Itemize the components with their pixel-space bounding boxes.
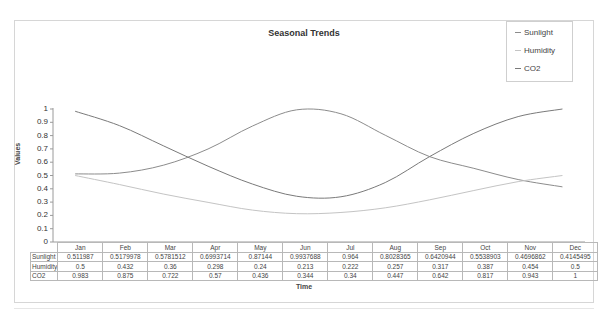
table-cell: 0.257 bbox=[373, 262, 418, 272]
table-cell: 0.432 bbox=[103, 262, 148, 272]
table-cell: 0.5179978 bbox=[103, 252, 148, 262]
table-cell: 0.983 bbox=[58, 271, 103, 281]
table-cell: 0.9937688 bbox=[283, 252, 328, 262]
table-header-cell: Feb bbox=[103, 243, 148, 253]
table-cell: 0.6993714 bbox=[193, 252, 238, 262]
table-header-cell: Sep bbox=[418, 243, 463, 253]
table-cell: 0.642 bbox=[418, 271, 463, 281]
table-cell: 0.222 bbox=[328, 262, 373, 272]
table-cell: 1 bbox=[553, 271, 598, 281]
table-header-cell: Aug bbox=[373, 243, 418, 253]
table-cell: 0.34 bbox=[328, 271, 373, 281]
table-header-cell: May bbox=[238, 243, 283, 253]
series-line-humidity bbox=[75, 176, 562, 214]
table-row: Humidity0.50.4320.360.2980.240.2130.2220… bbox=[31, 262, 598, 272]
table-cell: 0.387 bbox=[463, 262, 508, 272]
table-cell: 0.24 bbox=[238, 262, 283, 272]
table-cell: 0.36 bbox=[148, 262, 193, 272]
table-cell: 0.964 bbox=[328, 252, 373, 262]
series-line-co2 bbox=[75, 109, 562, 198]
table-cell: 0.454 bbox=[508, 262, 553, 272]
x-axis-label: Time bbox=[0, 283, 608, 290]
table-header-cell: Jun bbox=[283, 243, 328, 253]
table-header-row: JanFebMarAprMayJunJulAugSepOctNovDec bbox=[31, 243, 598, 253]
series-lines bbox=[75, 109, 562, 214]
table-row-header: Sunlight bbox=[31, 252, 58, 262]
table-cell: 0.6420944 bbox=[418, 252, 463, 262]
table-cell: 0.57 bbox=[193, 271, 238, 281]
table-header-cell: Apr bbox=[193, 243, 238, 253]
table-cell: 0.5538903 bbox=[463, 252, 508, 262]
table-header-cell: Dec bbox=[553, 243, 598, 253]
table-row-header: CO2 bbox=[31, 271, 58, 281]
table-cell: 0.87144 bbox=[238, 252, 283, 262]
table-cell: 0.4696862 bbox=[508, 252, 553, 262]
table-header-cell: Jan bbox=[58, 243, 103, 253]
table-header-cell: Mar bbox=[148, 243, 193, 253]
table-cell: 0.511987 bbox=[58, 252, 103, 262]
table-cell: 0.5 bbox=[553, 262, 598, 272]
table-cell: 0.213 bbox=[283, 262, 328, 272]
table-corner bbox=[31, 243, 58, 253]
table-cell: 0.317 bbox=[418, 262, 463, 272]
table-cell: 0.298 bbox=[193, 262, 238, 272]
table-header-cell: Nov bbox=[508, 243, 553, 253]
table-cell: 0.875 bbox=[103, 271, 148, 281]
table-cell: 0.943 bbox=[508, 271, 553, 281]
table-cell: 0.5781512 bbox=[148, 252, 193, 262]
table-cell: 0.344 bbox=[283, 271, 328, 281]
table-cell: 0.5 bbox=[58, 262, 103, 272]
table-cell: 0.447 bbox=[373, 271, 418, 281]
table-row-header: Humidity bbox=[31, 262, 58, 272]
table-row: CO20.9830.8750.7220.570.4360.3440.340.44… bbox=[31, 271, 598, 281]
data-table: JanFebMarAprMayJunJulAugSepOctNovDecSunl… bbox=[30, 242, 598, 281]
table-header-cell: Oct bbox=[463, 243, 508, 253]
table-cell: 0.722 bbox=[148, 271, 193, 281]
table-header-cell: Jul bbox=[328, 243, 373, 253]
table-cell: 0.436 bbox=[238, 271, 283, 281]
table-cell: 0.4145495 bbox=[553, 252, 598, 262]
table-cell: 0.8028365 bbox=[373, 252, 418, 262]
table-cell: 0.817 bbox=[463, 271, 508, 281]
series-line-sunlight bbox=[75, 109, 562, 187]
table-row: Sunlight0.5119870.51799780.57815120.6993… bbox=[31, 252, 598, 262]
